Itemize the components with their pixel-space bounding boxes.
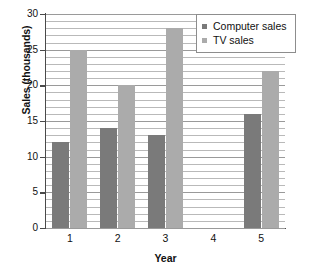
bar-tv-sales-year-5 [262, 71, 279, 228]
y-axis-tick-label: 0 [0, 222, 38, 233]
x-axis-line [45, 228, 286, 229]
legend-item-tv-sales: TV sales [202, 33, 287, 47]
bar-tv-sales-year-3 [166, 28, 183, 228]
y-axis-tick-label: 15 [0, 115, 38, 126]
x-axis-tick-label: 5 [241, 232, 281, 244]
x-axis-title: Year [46, 252, 285, 264]
bar-tv-sales-year-2 [118, 85, 135, 228]
x-axis-tick-label: 4 [193, 232, 233, 244]
x-axis-tick-label: 1 [50, 232, 90, 244]
x-axis-tick-label: 3 [146, 232, 186, 244]
y-axis-tick-label: 30 [0, 8, 38, 19]
x-axis-tick-label: 2 [98, 232, 138, 244]
y-axis-tick-label: 10 [0, 151, 38, 162]
y-axis-title: Sales (thousands) [20, 0, 32, 150]
bar-chart: Sales (thousands) 051015202530 12345 Yea… [0, 0, 312, 272]
bar-computer-sales-year-2 [100, 128, 117, 228]
y-axis-tick-label: 20 [0, 79, 38, 90]
bar-tv-sales-year-1 [70, 50, 87, 228]
legend-swatch-icon-computer-sales [202, 24, 207, 29]
legend: Computer sales TV sales [196, 14, 296, 53]
y-axis-tick-label: 5 [0, 186, 38, 197]
legend-item-computer-sales: Computer sales [202, 19, 287, 33]
bar-computer-sales-year-5 [244, 114, 261, 228]
legend-swatch-icon-tv-sales [202, 38, 207, 43]
y-axis-tick-label: 25 [0, 44, 38, 55]
bar-computer-sales-year-1 [52, 142, 69, 228]
legend-label-computer-sales: Computer sales [213, 20, 287, 32]
bar-computer-sales-year-3 [148, 135, 165, 228]
legend-label-tv-sales: TV sales [213, 34, 254, 46]
